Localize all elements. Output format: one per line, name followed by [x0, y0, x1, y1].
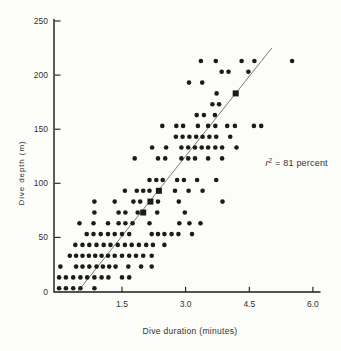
- data-point: [200, 80, 205, 85]
- data-point: [154, 178, 159, 183]
- data-point: [108, 243, 113, 248]
- data-point: [134, 253, 139, 258]
- data-point: [94, 264, 99, 269]
- data-point: [129, 243, 134, 248]
- data-point: [112, 232, 117, 237]
- y-tick-label: 50: [39, 232, 49, 242]
- data-point: [71, 286, 76, 291]
- y-axis-label: Dive depth (m): [17, 140, 26, 205]
- data-point: [175, 178, 180, 183]
- data-point: [78, 286, 83, 291]
- data-point: [58, 264, 63, 269]
- data-point: [91, 221, 96, 226]
- data-point: [206, 145, 211, 150]
- data-point: [214, 59, 219, 64]
- data-point: [219, 70, 224, 75]
- data-point: [139, 264, 144, 269]
- y-tick-label: 250: [34, 16, 48, 26]
- scatter-figure: 0501001502002501.53.04.56.0Dive depth (m…: [0, 0, 341, 351]
- data-point: [187, 134, 192, 139]
- data-point: [80, 253, 85, 258]
- data-point: [87, 243, 92, 248]
- data-point: [179, 156, 184, 161]
- data-point: [210, 102, 215, 107]
- data-point: [183, 210, 188, 215]
- data-point: [107, 264, 112, 269]
- data-point: [94, 243, 99, 248]
- data-point: [213, 113, 218, 118]
- data-point: [239, 59, 244, 64]
- data-point: [74, 253, 79, 258]
- data-point: [92, 275, 97, 280]
- data-point: [123, 243, 128, 248]
- data-point: [228, 134, 233, 139]
- data-point: [73, 243, 78, 248]
- data-point: [127, 253, 132, 258]
- data-point: [177, 221, 182, 226]
- data-point: [198, 221, 203, 226]
- data-point: [186, 145, 191, 150]
- data-point: [220, 145, 225, 150]
- data-point: [99, 275, 104, 280]
- data-point: [179, 145, 184, 150]
- data-point: [144, 243, 149, 248]
- data-point: [150, 145, 155, 150]
- data-point: [182, 178, 187, 183]
- data-point: [112, 253, 117, 258]
- data-point: [214, 91, 219, 96]
- data-point: [196, 124, 201, 129]
- data-point: [174, 124, 179, 129]
- data-point: [173, 189, 178, 194]
- data-point: [141, 189, 146, 194]
- y-tick-label: 100: [34, 178, 48, 188]
- line-marker-square: [140, 210, 146, 216]
- data-point: [163, 156, 168, 161]
- data-point: [106, 232, 111, 237]
- data-point: [127, 275, 132, 280]
- data-point: [207, 134, 212, 139]
- x-tick-label: 1.5: [116, 299, 128, 309]
- data-point: [80, 264, 85, 269]
- data-point: [87, 253, 92, 258]
- data-point: [156, 199, 161, 204]
- data-point: [290, 59, 295, 64]
- data-point: [130, 221, 135, 226]
- data-point: [149, 253, 154, 258]
- y-tick-label: 200: [34, 70, 48, 80]
- data-point: [123, 189, 128, 194]
- data-point: [120, 253, 125, 258]
- data-point: [190, 232, 195, 237]
- data-point: [132, 156, 137, 161]
- data-point: [199, 145, 204, 150]
- data-point: [106, 275, 111, 280]
- data-point: [126, 264, 131, 269]
- r-squared-annotation: r2 = 81 percent: [265, 157, 328, 169]
- data-point: [214, 178, 219, 183]
- data-point: [92, 286, 97, 291]
- data-point: [80, 243, 85, 248]
- data-point: [64, 286, 69, 291]
- data-point: [127, 232, 132, 237]
- data-point: [87, 264, 92, 269]
- y-tick-label: 0: [43, 287, 48, 297]
- data-point: [200, 134, 205, 139]
- data-point: [195, 178, 200, 183]
- data-point: [106, 253, 111, 258]
- data-point: [220, 199, 225, 204]
- data-point: [141, 253, 146, 258]
- data-point: [176, 232, 181, 237]
- data-point: [120, 275, 125, 280]
- data-point: [259, 124, 264, 129]
- data-point: [64, 275, 69, 280]
- data-point: [156, 232, 161, 237]
- data-point: [252, 124, 257, 129]
- data-point: [84, 232, 89, 237]
- data-point: [85, 275, 90, 280]
- data-point: [160, 124, 165, 129]
- data-point: [193, 156, 198, 161]
- line-marker-square: [233, 90, 239, 96]
- data-point: [233, 124, 238, 129]
- data-point: [186, 189, 191, 194]
- data-point: [246, 70, 251, 75]
- x-tick-label: 4.5: [243, 299, 255, 309]
